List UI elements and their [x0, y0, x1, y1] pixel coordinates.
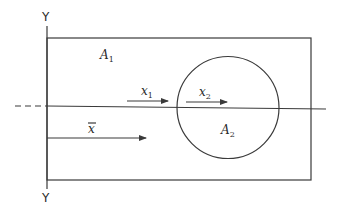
y-axis-top-label: Y — [41, 10, 50, 24]
vector-xbar-label: x — [88, 122, 95, 136]
region-a1-label: A1 — [99, 48, 114, 64]
vector-x2-label: x2 — [199, 85, 211, 101]
horizontal-axis-line — [47, 106, 326, 109]
region-a2-label: A2 — [220, 123, 235, 139]
y-axis-bottom-label: Y — [41, 191, 50, 205]
vector-x1-label: x1 — [141, 84, 153, 100]
diagram-canvas: Y Y A1 A2 x1 x2 x — [0, 0, 337, 215]
